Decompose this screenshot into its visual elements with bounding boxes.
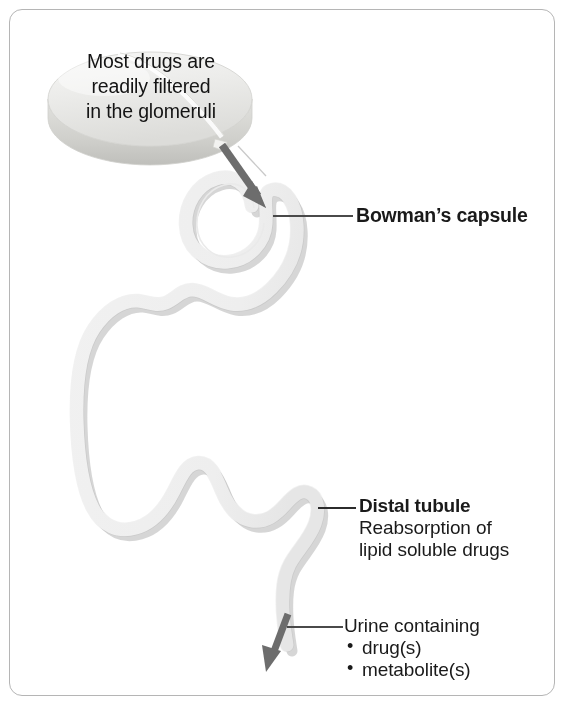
urine-list-item: drug(s) <box>362 637 480 659</box>
tablet-caption-line-1: Most drugs are <box>56 49 246 74</box>
tablet-caption-line-2: readily filtered <box>56 74 246 99</box>
urine-list-item: metabolite(s) <box>362 659 480 681</box>
tablet-caption: Most drugs are readily filtered in the g… <box>56 49 246 124</box>
distal-tubule-line-2: Reabsorption of <box>359 517 509 539</box>
label-distal-tubule: Distal tubule Reabsorption of lipid solu… <box>359 495 509 562</box>
figure-root: Most drugs are readily filtered in the g… <box>0 0 571 721</box>
nephron-tubule <box>77 178 318 645</box>
urine-contents-list: drug(s) metabolite(s) <box>344 637 480 681</box>
urine-heading: Urine containing <box>344 615 480 637</box>
label-bowmans-capsule: Bowman’s capsule <box>356 204 528 227</box>
tablet-caption-line-3: in the glomeruli <box>56 99 246 124</box>
distal-tubule-line-3: lipid soluble drugs <box>359 539 509 561</box>
label-urine: Urine containing drug(s) metabolite(s) <box>344 615 480 682</box>
distal-tubule-title: Distal tubule <box>359 495 509 517</box>
